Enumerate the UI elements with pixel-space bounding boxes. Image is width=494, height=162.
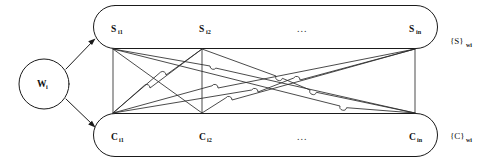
node-c-i2-sub: i2 bbox=[207, 136, 212, 143]
sense-ellipsis: ... bbox=[297, 23, 308, 34]
concept-set-side-label-sub: wi bbox=[466, 137, 472, 143]
concept-set-boundary bbox=[94, 114, 438, 157]
arrow-to-sense-set-head bbox=[88, 39, 95, 46]
word-node-label-sub: i bbox=[46, 83, 48, 90]
node-c-in-sub: in bbox=[417, 136, 423, 143]
node-c-i2-base: C bbox=[199, 132, 206, 142]
node-c-in: C in bbox=[409, 132, 423, 143]
word-node: W i bbox=[19, 59, 69, 109]
node-s-in-base: S bbox=[409, 24, 414, 34]
node-s-i1-base: S bbox=[111, 24, 116, 34]
sense-set-boundary bbox=[94, 6, 438, 49]
node-c-i1-base: C bbox=[111, 132, 118, 142]
node-s-i1-sub: i1 bbox=[118, 28, 123, 35]
sense-set-side-label-base: {S} bbox=[450, 36, 464, 46]
concept-ellipsis: ... bbox=[297, 131, 308, 142]
concept-set-side-label: {C} wi bbox=[450, 131, 472, 143]
node-c-in-base: C bbox=[409, 132, 416, 142]
edge-s2-cn bbox=[202, 49, 415, 113]
diagram-root: W i S i1 S i2 ... S in bbox=[0, 0, 494, 162]
node-s-i2-base: S bbox=[199, 24, 204, 34]
node-c-i1: C i1 bbox=[111, 132, 124, 143]
connection-mesh bbox=[113, 49, 415, 113]
sense-set-side-label-sub: wi bbox=[466, 42, 472, 48]
sense-set-side-label: {S} wi bbox=[450, 36, 472, 48]
concept-set-container: C i1 C i2 ... C in bbox=[94, 114, 438, 157]
edge-sn-c2 bbox=[202, 49, 415, 113]
node-s-i1: S i1 bbox=[111, 24, 123, 35]
node-s-in: S in bbox=[409, 24, 422, 35]
node-c-i1-sub: i1 bbox=[119, 136, 124, 143]
arrow-to-sense-set bbox=[66, 39, 96, 70]
arrow-to-concept-set bbox=[66, 99, 96, 128]
sense-set-container: S i1 S i2 ... S in bbox=[94, 6, 438, 49]
node-c-i2: C i2 bbox=[199, 132, 212, 143]
relation-diagram: W i S i1 S i2 ... S in bbox=[0, 0, 494, 162]
concept-set-side-label-base: {C} bbox=[450, 131, 465, 141]
node-s-in-sub: in bbox=[416, 28, 422, 35]
node-s-i2-sub: i2 bbox=[206, 28, 211, 35]
node-s-i2: S i2 bbox=[199, 24, 211, 35]
